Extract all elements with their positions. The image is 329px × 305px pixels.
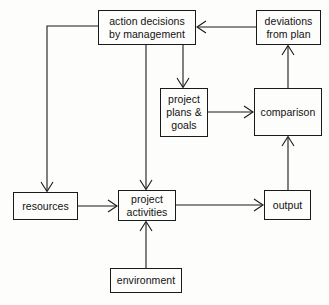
node-deviations-label-line1: deviations	[265, 15, 313, 28]
node-action-decisions-label-line1: action decisions	[109, 15, 185, 28]
edge-activities-to-output	[176, 199, 263, 211]
node-action-decisions[interactable]: action decisions by management	[98, 10, 196, 45]
node-activities-label-line2: activities	[127, 206, 168, 219]
node-deviations-from-plan[interactable]: deviations from plan	[256, 10, 321, 45]
node-resources-label: resources	[22, 200, 69, 213]
node-activities-label-line1: project	[131, 193, 163, 206]
node-plans-label-line1: project	[168, 93, 200, 106]
edge-plans-to-comparison	[208, 106, 253, 118]
diagram-connectors-layer	[0, 0, 329, 305]
flowchart-diagram: action decisions by management deviation…	[0, 0, 329, 305]
node-project-plans-and-goals[interactable]: project plans & goals	[160, 88, 208, 137]
node-environment[interactable]: environment	[110, 268, 182, 293]
edge-action-decisions-to-resources	[41, 26, 98, 192]
edge-environment-to-activities	[140, 222, 152, 269]
edge-comparison-to-deviations	[282, 46, 294, 89]
node-environment-label: environment	[117, 274, 175, 287]
node-comparison-label: comparison	[261, 106, 316, 119]
edge-output-to-comparison	[282, 137, 294, 191]
node-project-activities[interactable]: project activities	[118, 190, 176, 221]
edge-action-decisions-to-activities	[140, 45, 152, 190]
node-deviations-label-line2: from plan	[266, 28, 310, 41]
node-plans-label-line2: plans &	[166, 106, 201, 119]
edge-action-decisions-to-plans	[177, 45, 189, 88]
node-output[interactable]: output	[264, 190, 311, 220]
node-action-decisions-label-line2: by management	[109, 28, 185, 41]
edge-resources-to-activities	[78, 200, 117, 212]
node-output-label: output	[273, 199, 303, 212]
node-comparison[interactable]: comparison	[254, 88, 322, 136]
node-resources[interactable]: resources	[13, 192, 78, 220]
edge-deviations-to-action-decisions	[197, 21, 256, 33]
node-plans-label-line3: goals	[171, 119, 196, 132]
